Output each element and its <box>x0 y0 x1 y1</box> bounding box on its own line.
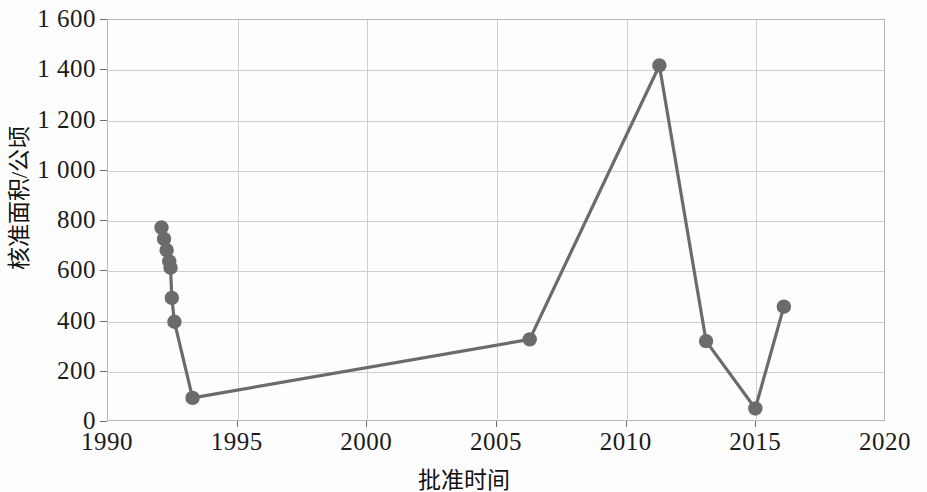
y-axis-tick-mark <box>100 321 107 322</box>
x-axis-tick-label: 1990 <box>81 429 133 454</box>
y-axis-tick-mark <box>100 69 107 70</box>
y-axis-tick-label: 1 600 <box>37 6 96 31</box>
y-axis-tick-label: 1 400 <box>37 56 96 81</box>
y-axis-tick-mark <box>100 220 107 221</box>
x-axis-tick-mark <box>626 421 627 427</box>
x-axis-title: 批准时间 <box>0 461 927 492</box>
x-axis-tick-label: 2005 <box>470 429 522 454</box>
gridline-horizontal <box>108 322 884 323</box>
gridline-vertical <box>238 20 239 420</box>
y-axis-tick-mark <box>100 371 107 372</box>
x-axis-tick-label: 2015 <box>729 429 781 454</box>
y-axis-tick-mark <box>100 120 107 121</box>
gridline-vertical <box>367 20 368 420</box>
y-axis-tick-mark <box>100 421 107 422</box>
y-axis-tick-label: 200 <box>57 358 96 383</box>
y-axis-title: 核准面积/公顷 <box>0 48 34 348</box>
x-axis-tick-labels: 1990199520002005201020152020 <box>0 429 927 465</box>
gridline-horizontal <box>108 221 884 222</box>
y-axis-tick-label: 400 <box>57 308 96 333</box>
gridline-vertical <box>756 20 757 420</box>
gridline-vertical <box>627 20 628 420</box>
y-axis-tick-label: 1 200 <box>37 107 96 132</box>
y-axis-tick-label: 800 <box>57 207 96 232</box>
y-axis-tick-mark <box>100 19 107 20</box>
gridline-vertical <box>497 20 498 420</box>
x-axis-tick-mark <box>237 421 238 427</box>
x-axis-tick-label: 2000 <box>340 429 392 454</box>
x-axis-tick-mark <box>366 421 367 427</box>
gridline-horizontal <box>108 121 884 122</box>
y-axis-tick-mark <box>100 270 107 271</box>
x-axis-tick-mark <box>496 421 497 427</box>
gridline-horizontal <box>108 171 884 172</box>
plot-area <box>107 19 885 421</box>
chart-figure: 02004006008001 0001 2001 4001 600 199019… <box>0 0 927 492</box>
y-axis-tick-label: 1 000 <box>37 157 96 182</box>
x-axis-tick-label: 2010 <box>600 429 652 454</box>
x-axis-tick-mark <box>755 421 756 427</box>
x-axis-tick-label: 1995 <box>211 429 263 454</box>
y-axis-tick-label: 600 <box>57 257 96 282</box>
x-axis-tick-label: 2020 <box>859 429 911 454</box>
gridline-horizontal <box>108 271 884 272</box>
gridline-horizontal <box>108 70 884 71</box>
gridline-horizontal <box>108 372 884 373</box>
y-axis-tick-mark <box>100 170 107 171</box>
